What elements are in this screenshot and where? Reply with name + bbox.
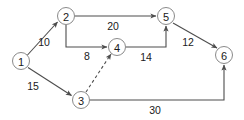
node-2[interactable]: 2	[58, 8, 75, 25]
node-6[interactable]: 6	[216, 47, 233, 64]
node-label-3: 3	[78, 95, 84, 107]
edge-weight-1-3: 15	[27, 80, 39, 92]
node-label-6: 6	[221, 50, 227, 62]
edge-weight-2-5: 20	[107, 20, 119, 32]
node-label-5: 5	[163, 11, 169, 23]
node-3[interactable]: 3	[73, 92, 90, 109]
edge-weight-1-2: 10	[38, 36, 50, 48]
edge-4-to-5	[126, 26, 166, 47]
node-label-2: 2	[63, 11, 69, 23]
nodes-layer: 123456	[13, 8, 233, 109]
edge-weights-layer: 1015208141230	[27, 20, 194, 116]
node-label-1: 1	[18, 56, 24, 68]
edge-3-to-6	[90, 65, 224, 100]
edge-weight-5-6: 12	[182, 36, 194, 48]
edge-weight-4-5: 14	[140, 51, 152, 63]
node-1[interactable]: 1	[13, 53, 30, 70]
edge-weight-2-4: 8	[84, 50, 90, 62]
edge-2-to-4	[66, 25, 107, 47]
edges-layer	[28, 16, 225, 100]
graph-canvas: 1015208141230 123456	[0, 0, 244, 120]
node-5[interactable]: 5	[158, 8, 175, 25]
node-4[interactable]: 4	[109, 39, 126, 56]
edge-weight-3-6: 30	[149, 104, 161, 116]
graph-diagram: 1015208141230 123456	[0, 0, 244, 120]
node-label-4: 4	[114, 42, 120, 54]
edge-5-to-6	[173, 23, 217, 48]
